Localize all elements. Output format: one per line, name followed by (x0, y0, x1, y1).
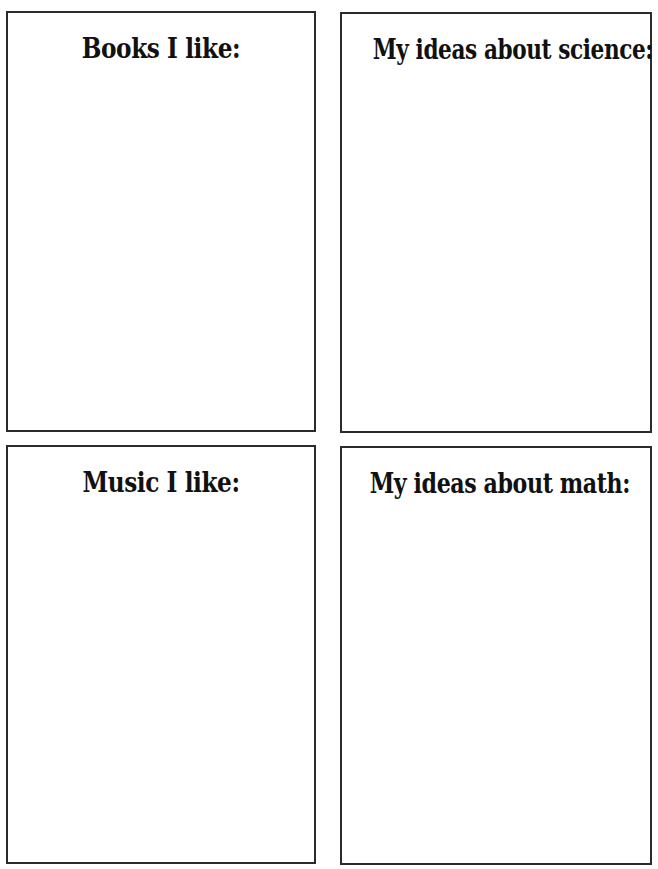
writing-area-books (16, 83, 306, 422)
panel-heading: Books I like: (29, 35, 292, 62)
panel-music-i-like: Music I like: (6, 445, 316, 864)
panel-heading: Music I like: (29, 469, 292, 496)
panel-books-i-like: Books I like: (6, 11, 316, 432)
panel-ideas-about-math: My ideas about math: (340, 446, 652, 865)
panel-heading: My ideas about math: (370, 470, 623, 497)
panel-ideas-about-science: My ideas about science: (340, 12, 652, 433)
writing-area-music (16, 517, 306, 854)
writing-area-science (350, 84, 642, 423)
panel-heading: My ideas about science: (373, 36, 619, 63)
writing-area-math (350, 518, 642, 855)
